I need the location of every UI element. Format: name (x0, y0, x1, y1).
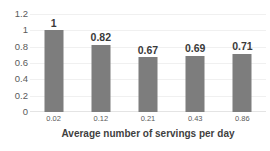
y-axis: 1.2 1 0.8 0.6 0.4 0.2 0 (0, 14, 28, 112)
bar-value-label: 0.69 (185, 43, 205, 54)
bar-slot: 0.69 (172, 14, 219, 112)
bar-series: 1 0.82 0.67 0.69 0.71 (30, 14, 266, 112)
bar[interactable] (186, 56, 205, 112)
bar-chart: 1.2 1 0.8 0.6 0.4 0.2 0 1 0.82 0.67 0.69… (0, 0, 270, 151)
bar-value-label: 1 (51, 18, 57, 29)
x-axis: 0.02 0.12 0.21 0.43 0.86 (30, 115, 266, 127)
bar[interactable] (233, 54, 252, 112)
x-tick-label: 0.12 (93, 115, 108, 123)
x-tick-label: 0.02 (46, 115, 61, 123)
y-tick-label: 0.4 (2, 75, 28, 85)
bar-value-label: 0.71 (232, 41, 252, 52)
y-tick-label: 1.2 (2, 9, 28, 19)
x-tick-label: 0.21 (141, 115, 156, 123)
bar-value-label: 0.82 (91, 32, 111, 43)
bar-value-label: 0.67 (138, 45, 158, 56)
bar[interactable] (44, 30, 63, 112)
y-tick-label: 0 (2, 107, 28, 117)
bar[interactable] (91, 45, 110, 112)
y-tick-label: 0.8 (2, 42, 28, 52)
bar-slot: 0.71 (219, 14, 266, 112)
bar-slot: 0.67 (124, 14, 171, 112)
bar[interactable] (138, 57, 157, 112)
y-tick-label: 0.2 (2, 91, 28, 101)
x-tick-label: 0.86 (235, 115, 250, 123)
y-tick-label: 0.6 (2, 58, 28, 68)
bar-slot: 0.82 (77, 14, 124, 112)
x-axis-title: Average number of servings per day (30, 128, 266, 139)
y-tick-label: 1 (2, 26, 28, 36)
bar-slot: 1 (30, 14, 77, 112)
x-tick-label: 0.43 (188, 115, 203, 123)
